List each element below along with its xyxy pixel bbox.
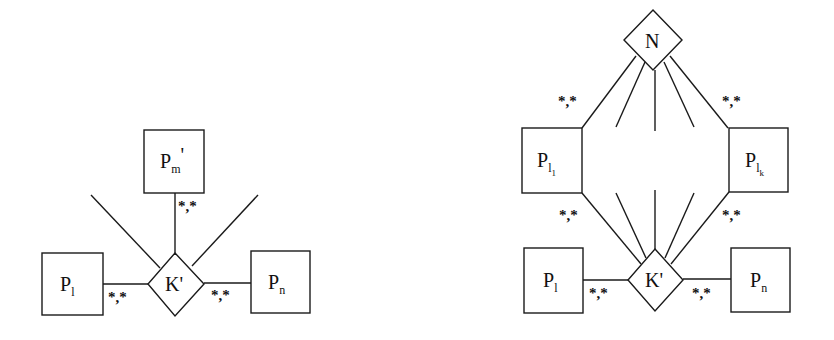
edge-n-open-1 <box>616 62 645 127</box>
svg-text:K': K' <box>165 273 183 295</box>
cardinality-pl: *,* <box>589 285 608 301</box>
edge-open-right <box>192 195 258 266</box>
entity-label: P <box>745 149 756 171</box>
entity-pl[interactable]: Pl <box>42 253 103 315</box>
entity-label: P <box>268 271 279 293</box>
entity-subscript: n <box>761 281 767 295</box>
cardinality-pl1-top: *,* <box>558 93 577 109</box>
entity-sub-subscript: 1 <box>551 168 556 178</box>
entity-pl[interactable]: Pl <box>524 248 583 313</box>
edge-k-open-1 <box>616 193 646 258</box>
cardinality-pn: *,* <box>211 287 230 303</box>
er-diagram-canvas: Pm' Pl Pn K' *,* *,* *,* <box>0 0 834 340</box>
entity-subscript: n <box>279 283 285 297</box>
left-diagram: Pm' Pl Pn K' *,* *,* *,* <box>42 130 310 316</box>
cardinality-plk-top: *,* <box>722 93 741 109</box>
cardinality-pn: *,* <box>692 285 711 301</box>
cardinality-plk-bottom: *,* <box>722 207 741 223</box>
cardinality-pl1-bottom: *,* <box>559 207 578 223</box>
edge-n-plk <box>670 56 728 128</box>
entity-pm-prime[interactable]: Pm' <box>144 130 204 193</box>
entity-sub-subscript: k <box>759 168 764 178</box>
relationship-label: K <box>645 269 660 291</box>
entity-label: P <box>160 150 171 172</box>
entity-label: P <box>60 273 71 295</box>
right-diagram: N Pl1 Plk Pl Pn <box>522 10 790 313</box>
entity-pn[interactable]: Pn <box>251 251 310 313</box>
cardinality-pl: *,* <box>108 289 127 305</box>
cardinality-pm: *,* <box>178 198 197 214</box>
prime-mark: ' <box>180 144 184 166</box>
entity-plk[interactable]: Plk <box>729 128 788 192</box>
entity-pl1[interactable]: Pl1 <box>522 128 582 193</box>
entity-label: P <box>750 269 761 291</box>
prime-mark: ' <box>179 273 183 295</box>
relationship-label: N <box>645 30 659 52</box>
svg-text:K': K' <box>645 269 663 291</box>
entity-label: P <box>537 149 548 171</box>
edge-k-open-3 <box>665 193 694 258</box>
edge-n-pl1 <box>582 56 636 128</box>
entity-label: P <box>543 269 554 291</box>
edge-n-open-3 <box>664 62 694 127</box>
prime-mark: ' <box>659 269 663 291</box>
relationship-label: K <box>165 273 180 295</box>
edge-plk-k <box>671 192 729 264</box>
entity-pn[interactable]: Pn <box>731 248 790 312</box>
